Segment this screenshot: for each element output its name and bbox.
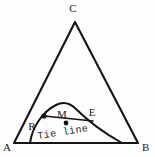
- ternary-phase-diagram: C A B R M E Tie line: [0, 0, 155, 157]
- point-marker-r: [41, 113, 46, 118]
- tie-line-label: Tie line: [37, 123, 89, 142]
- point-label-r: R: [28, 120, 36, 132]
- vertex-label-a: A: [3, 141, 11, 153]
- vertex-label-c: C: [69, 2, 76, 14]
- point-label-m: M: [57, 108, 67, 120]
- point-label-e: E: [89, 106, 96, 118]
- point-marker-m: [64, 121, 69, 126]
- ternary-diagram-canvas: C A B R M E Tie line: [0, 0, 155, 157]
- vertex-label-b: B: [142, 141, 149, 153]
